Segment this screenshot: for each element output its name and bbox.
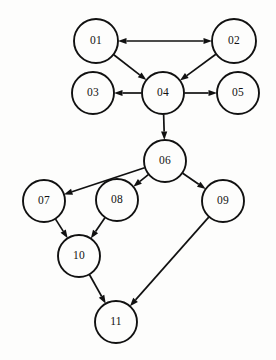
arrow-head-icon-04-06 [161, 131, 167, 140]
edge-06-to-09 [183, 173, 206, 189]
arrow-head-icon-08-10 [91, 230, 98, 239]
arrow-head-icon-10-11 [99, 295, 106, 304]
edge-line-04-06 [164, 114, 165, 131]
edge-line-10-11 [90, 275, 102, 297]
arrow-head-icon-04-03 [114, 90, 123, 96]
edge-line-08-10 [96, 218, 105, 232]
node-label-04: 04 [157, 86, 169, 98]
edge-06-to-08 [133, 175, 148, 187]
arrow-head-icon-07-10 [61, 229, 68, 238]
graph-node-03[interactable]: 03 [72, 72, 114, 114]
graph-node-02[interactable]: 02 [212, 19, 256, 63]
node-label-07: 07 [38, 194, 50, 206]
node-label-01: 01 [90, 34, 102, 46]
node-label-10: 10 [73, 249, 85, 261]
graph-node-10[interactable]: 10 [58, 235, 100, 277]
node-label-02: 02 [228, 34, 240, 46]
node-label-11: 11 [110, 315, 122, 327]
edge-line-07-10 [56, 219, 64, 231]
graph-node-09[interactable]: 09 [202, 180, 244, 222]
edge-line-06-09 [183, 173, 199, 184]
edge-10-to-11 [90, 275, 106, 304]
graph-node-07[interactable]: 07 [23, 180, 65, 222]
arrow-head-icon-01-02 [204, 38, 213, 44]
edge-09-to-11 [130, 217, 209, 306]
edge-07-to-10 [56, 219, 68, 238]
node-label-06: 06 [159, 154, 171, 166]
node-label-09: 09 [217, 194, 229, 206]
edge-04-to-06 [161, 114, 167, 140]
edge-line-06-08 [140, 175, 148, 182]
arrow-head-icon-02-01 [118, 38, 127, 44]
graph-node-06[interactable]: 06 [144, 140, 186, 182]
arrow-head-icon-04-05 [209, 90, 218, 96]
graph-node-08[interactable]: 08 [96, 179, 138, 221]
edge-08-to-10 [91, 218, 105, 239]
edge-line-09-11 [136, 217, 209, 300]
edge-01-to-04 [114, 55, 147, 80]
edge-line-02-04 [187, 54, 216, 75]
edge-02-to-04 [180, 54, 216, 80]
graph-node-05[interactable]: 05 [217, 72, 259, 114]
graph-node-01[interactable]: 01 [74, 19, 118, 63]
directed-graph-canvas: 0102030405060708091011 [0, 0, 276, 360]
graph-node-11[interactable]: 11 [95, 301, 137, 343]
node-label-03: 03 [87, 86, 99, 98]
node-label-08: 08 [111, 193, 123, 205]
edge-line-01-04 [114, 55, 140, 75]
edge-04-to-03 [114, 90, 142, 96]
edge-01-to-02 [118, 38, 212, 44]
node-label-05: 05 [232, 86, 244, 98]
arrow-head-icon-06-07 [64, 189, 73, 195]
arrow-head-icon-06-09 [197, 182, 206, 189]
edge-04-to-05 [185, 90, 218, 96]
graph-node-04[interactable]: 04 [142, 72, 184, 114]
